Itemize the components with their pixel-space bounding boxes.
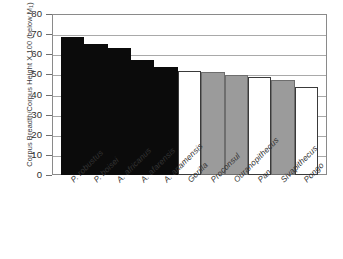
y-axis-tick [46, 155, 52, 156]
y-axis-tick-label: 10 [0, 150, 42, 160]
bar-chart: Corpus Breadth/Corpus Height X 100 (belo… [0, 0, 343, 259]
y-axis-tick [46, 54, 52, 55]
y-axis-tick-label: 30 [0, 110, 42, 120]
y-axis-tick [46, 115, 52, 116]
bar [108, 48, 131, 175]
bar [61, 37, 84, 175]
y-axis-tick-label: 60 [0, 49, 42, 59]
y-axis-tick-label: 80 [0, 9, 42, 19]
y-axis-tick-label: 50 [0, 69, 42, 79]
y-axis-tick [46, 135, 52, 136]
y-axis-tick-label: 70 [0, 29, 42, 39]
y-axis-tick-label: 40 [0, 90, 42, 100]
bar [271, 80, 294, 175]
bar [201, 72, 224, 175]
y-axis-tick [46, 95, 52, 96]
y-axis-tick [46, 74, 52, 75]
y-axis-tick-label: 0 [0, 170, 42, 180]
y-axis-tick [46, 14, 52, 15]
x-axis-labels: P. robustusP. boiseiA. africanusA. afare… [0, 176, 343, 259]
y-axis-tick [46, 175, 52, 176]
y-axis-tick-label: 20 [0, 130, 42, 140]
y-axis-tick [46, 34, 52, 35]
